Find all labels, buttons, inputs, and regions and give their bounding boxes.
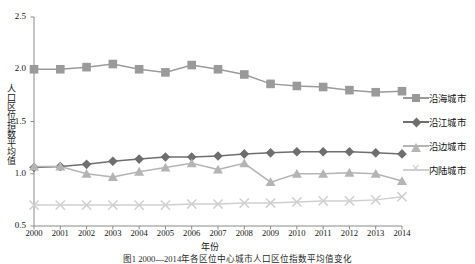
legend-label: 沿江城市 [429, 115, 466, 129]
series-x [29, 192, 406, 210]
triangle-marker-icon [403, 140, 429, 152]
series-square [30, 60, 407, 97]
diamond-marker-icon [403, 116, 429, 128]
legend-label: 沿海城市 [429, 91, 466, 105]
chart-legend: 沿海城市沿江城市沿边城市✕内陆城市 [403, 86, 475, 182]
legend-item-3[interactable]: ✕内陆城市 [403, 158, 475, 182]
figure-caption: 图1 2000—2014年各区位中心城市人口区位指数平均值变化 [0, 252, 475, 264]
x-marker-icon: ✕ [403, 164, 429, 176]
legend-label: 沿边城市 [429, 139, 466, 153]
legend-item-1[interactable]: 沿江城市 [403, 110, 475, 134]
legend-label: 内陆城市 [429, 163, 466, 177]
square-marker-icon [403, 92, 429, 104]
legend-item-2[interactable]: 沿边城市 [403, 134, 475, 158]
legend-item-0[interactable]: 沿海城市 [403, 86, 475, 110]
